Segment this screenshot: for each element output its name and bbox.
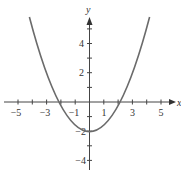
- svg-text:−1: −1: [69, 107, 80, 118]
- svg-text:−4: −4: [75, 155, 86, 166]
- svg-text:3: 3: [130, 107, 135, 118]
- svg-text:1: 1: [102, 107, 107, 118]
- svg-text:4: 4: [79, 38, 84, 49]
- svg-text:5: 5: [159, 107, 164, 118]
- svg-text:−3: −3: [40, 107, 51, 118]
- parabola-chart: x y −5 −3 −1 1 3 5 4 2: [0, 0, 181, 174]
- y-axis-arrow-icon: [87, 17, 93, 25]
- svg-text:2: 2: [79, 67, 84, 78]
- y-axis-label: y: [85, 4, 91, 15]
- x-axis-label: x: [176, 97, 181, 108]
- x-axis-arrow-icon: [169, 99, 176, 105]
- svg-text:−5: −5: [11, 107, 22, 118]
